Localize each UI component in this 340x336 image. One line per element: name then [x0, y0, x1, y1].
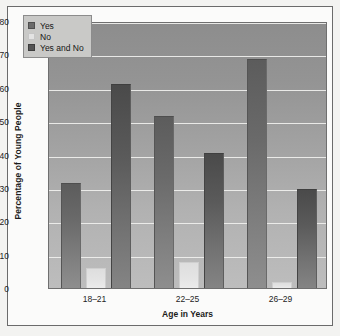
screenshot-page: Percentage of Young People 0102030405060… — [0, 0, 340, 336]
bar-yes-and-no-22-25 — [204, 153, 224, 288]
bar-chart-figure: Percentage of Young People 0102030405060… — [7, 6, 333, 326]
legend-item-label: No — [40, 32, 51, 42]
y-tick-label: 50 — [0, 117, 9, 127]
gridline — [49, 257, 326, 258]
bar-no-26-29 — [272, 282, 292, 288]
legend-item-label: Yes and No — [40, 43, 84, 53]
x-tick-label: 18–21 — [55, 294, 135, 304]
bar-yes-18-21 — [61, 183, 81, 288]
y-tick-label: 20 — [0, 217, 9, 227]
y-tick-label: 40 — [0, 151, 9, 161]
x-tick-label: 26–29 — [241, 294, 321, 304]
x-tick-label: 22–25 — [148, 294, 228, 304]
legend-item-no: No — [28, 31, 84, 42]
gridline — [49, 223, 326, 224]
bar-yes-22-25 — [154, 116, 174, 288]
legend-item-label: Yes — [40, 21, 54, 31]
y-tick-label: 80 — [0, 17, 9, 27]
gridline — [49, 157, 326, 158]
bar-no-18-21 — [86, 268, 106, 288]
bar-yes-and-no-26-29 — [297, 189, 317, 288]
chart-legend: YesNoYes and No — [23, 15, 92, 58]
legend-item-yes: Yes — [28, 20, 84, 31]
bar-no-22-25 — [179, 262, 199, 288]
gridline — [49, 123, 326, 124]
bar-yes-and-no-18-21 — [111, 84, 131, 288]
legend-swatch-icon — [28, 33, 35, 40]
plot-area — [48, 22, 327, 289]
gridline — [49, 90, 326, 91]
y-tick-label: 70 — [0, 50, 9, 60]
gridline — [49, 190, 326, 191]
bar-yes-26-29 — [247, 59, 267, 288]
x-axis-title: Age in Years — [48, 309, 327, 319]
y-tick-label: 60 — [0, 84, 9, 94]
legend-swatch-icon — [28, 22, 35, 29]
y-tick-label: 10 — [0, 251, 9, 261]
legend-swatch-icon — [28, 44, 35, 51]
y-axis-title: Percentage of Young People — [13, 61, 23, 261]
legend-item-yesno: Yes and No — [28, 42, 84, 53]
y-tick-label: 30 — [0, 184, 9, 194]
y-tick-label: 0 — [0, 284, 9, 294]
